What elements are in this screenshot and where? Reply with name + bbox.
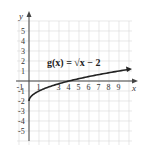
y-tick-label: 5 — [21, 27, 25, 36]
y-tick-label: -4 — [18, 117, 25, 126]
x-tick-label: 7 — [97, 83, 101, 92]
y-tick-label: -3 — [18, 107, 25, 116]
y-axis-label: y — [18, 11, 23, 21]
y-tick-label: 1 — [21, 67, 25, 76]
x-tick-label: 5 — [77, 83, 81, 92]
function-label: g(x) = √x − 2 — [47, 57, 101, 69]
function-graph: -11345678954321-1-2-3-4-5 g(x) = √x − 2 … — [0, 0, 144, 145]
grid — [17, 21, 132, 145]
y-tick-label: -2 — [18, 97, 25, 106]
y-tick-label: -5 — [18, 127, 25, 136]
y-tick-label: 2 — [21, 57, 25, 66]
y-tick-label: 4 — [21, 37, 25, 46]
x-axis-label: x — [131, 83, 136, 93]
x-tick-label: 9 — [117, 83, 121, 92]
x-tick-label: 6 — [87, 83, 91, 92]
y-tick-label: -1 — [18, 87, 25, 96]
x-tick-label: 4 — [67, 83, 71, 92]
y-tick-label: 3 — [21, 47, 25, 56]
x-tick-label: 8 — [107, 83, 111, 92]
axes — [16, 11, 138, 141]
y-axis-arrow-icon — [27, 11, 32, 17]
